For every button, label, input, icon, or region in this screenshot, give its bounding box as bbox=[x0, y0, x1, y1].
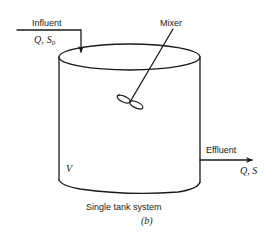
effluent-label: Effluent bbox=[206, 145, 237, 155]
effluent-quantity: Q, S bbox=[240, 165, 257, 176]
single-tank-diagram: Influent Q,S0 Mixer V Effluent Q, S Sing… bbox=[0, 0, 274, 235]
mixer-shaft bbox=[130, 29, 173, 102]
diagram-sublabel: (b) bbox=[141, 215, 153, 227]
tank bbox=[59, 44, 200, 193]
tank-bottom bbox=[59, 180, 200, 193]
tank-volume-label: V bbox=[66, 163, 74, 174]
influent-label: Influent bbox=[32, 18, 62, 28]
mixer-impeller-icon bbox=[116, 93, 144, 110]
diagram-caption: Single tank system bbox=[86, 202, 162, 212]
influent-quantity: Q,S0 bbox=[34, 34, 56, 47]
mixer-label: Mixer bbox=[160, 18, 182, 28]
tank-top-rim bbox=[59, 44, 200, 70]
